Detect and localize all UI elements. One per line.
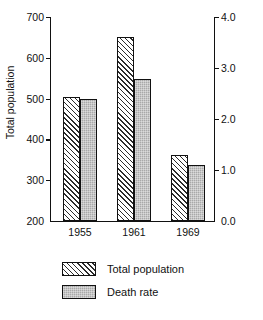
left-tick-700	[46, 17, 51, 18]
bar-death-rate-1961	[134, 79, 151, 221]
chart-legend: Total population Death rate	[62, 262, 184, 299]
right-tick-label-3: 3.0	[221, 63, 236, 74]
legend-swatch-death-rate	[62, 285, 96, 299]
left-tick-400	[46, 139, 51, 140]
left-tick-600	[46, 58, 51, 59]
bar-total-population-1955	[63, 97, 80, 221]
left-tick-label-500: 500	[26, 93, 44, 104]
left-tick-label-300: 300	[26, 175, 44, 186]
bar-chart-figure: Total population Deaths per 100 men 700 …	[0, 0, 263, 320]
bar-death-rate-1969	[188, 165, 205, 221]
left-tick-label-700: 700	[26, 12, 44, 23]
right-tick-2	[214, 119, 219, 120]
left-tick-label-600: 600	[26, 53, 44, 64]
bar-total-population-1969	[171, 155, 188, 222]
left-tick-label-200: 200	[26, 216, 44, 227]
bar-total-population-1961	[117, 37, 134, 221]
plot-area: 700 600 500 400 300 200 4.0 3.0 2.0 1.0 …	[50, 17, 215, 222]
right-tick-label-2: 2.0	[221, 114, 236, 125]
left-tick-label-400: 400	[26, 134, 44, 145]
right-axis-title: Deaths per 100 men	[262, 0, 263, 205]
right-tick-label-0: 0.0	[221, 216, 236, 227]
x-tick-label-1955: 1955	[50, 227, 110, 238]
bar-group-1961: 1961	[117, 17, 151, 221]
right-tick-4	[214, 17, 219, 18]
right-tick-1	[214, 170, 219, 171]
right-tick-3	[214, 68, 219, 69]
x-tick-label-1961: 1961	[104, 227, 164, 238]
legend-swatch-total-population	[62, 262, 96, 276]
legend-item-total-population: Total population	[62, 262, 184, 276]
bar-group-1969: 1969	[171, 17, 205, 221]
left-axis-title: Total population	[3, 0, 17, 205]
right-tick-label-4: 4.0	[221, 12, 236, 23]
left-tick-300	[46, 180, 51, 181]
bar-group-1955: 1955	[63, 17, 97, 221]
legend-item-death-rate: Death rate	[62, 285, 184, 299]
left-tick-500	[46, 99, 51, 100]
x-tick-label-1969: 1969	[158, 227, 218, 238]
bar-death-rate-1955	[80, 99, 97, 221]
legend-label-total-population: Total population	[107, 263, 184, 275]
right-tick-label-1: 1.0	[221, 165, 236, 176]
legend-label-death-rate: Death rate	[107, 286, 158, 298]
